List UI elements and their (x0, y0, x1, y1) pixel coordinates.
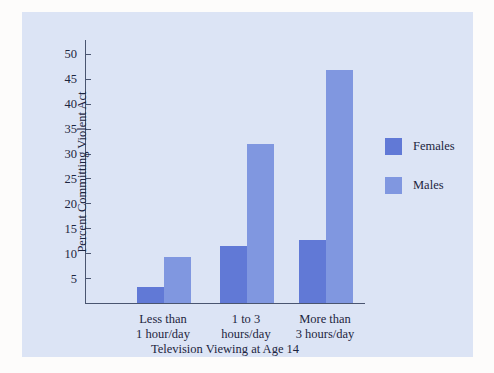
chart-legend: FemalesMales (385, 138, 455, 216)
legend-label: Males (413, 178, 444, 193)
plot-area: 5101520253035404550 Less than1 hour/day1… (85, 40, 365, 304)
x-axis-category-label: More than3 hours/day (296, 312, 355, 343)
y-axis-title-wrapper: Percent Committing Violent Act (44, 40, 45, 304)
bar-males (247, 144, 274, 303)
x-axis-category-label-line: More than (296, 312, 355, 327)
bar-group (299, 40, 353, 303)
legend-swatch-males (385, 177, 402, 194)
legend-label: Females (413, 139, 455, 154)
bar-males (164, 257, 191, 303)
bar-females (220, 246, 247, 303)
bar-group (220, 40, 274, 303)
bar-groups (86, 40, 365, 303)
chart-figure: 5101520253035404550 Less than1 hour/day1… (22, 12, 473, 357)
bar-females (137, 287, 164, 303)
legend-item-females: Females (385, 138, 455, 155)
x-axis-category-label-line: 1 to 3 (221, 312, 270, 327)
x-axis-title: Television Viewing at Age 14 (85, 342, 365, 357)
y-axis-tick-label: 5 (71, 272, 77, 285)
legend-swatch-females (385, 138, 402, 155)
bar-females (299, 240, 326, 303)
y-axis-tick-label: 50 (65, 48, 78, 61)
x-axis-category-label-line: 3 hours/day (296, 327, 355, 342)
bar-group (137, 40, 191, 303)
bar-males (326, 70, 353, 303)
x-axis-category-label-line: Less than (136, 312, 190, 327)
x-axis-category-label: 1 to 3hours/day (221, 312, 270, 343)
x-axis-category-label-line: hours/day (221, 327, 270, 342)
x-axis-line (85, 303, 365, 304)
x-axis-category-label: Less than1 hour/day (136, 312, 190, 343)
x-axis-category-label-line: 1 hour/day (136, 327, 190, 342)
legend-item-males: Males (385, 177, 455, 194)
y-axis-title: Percent Committing Violent Act (75, 72, 90, 272)
